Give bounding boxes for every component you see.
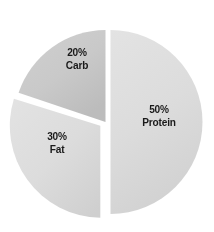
pie-label-carb-name: Carb [48, 59, 105, 72]
pie-label-protein-name: Protein [130, 116, 187, 129]
pie-label-fat-name: Fat [28, 143, 85, 156]
pie-label-protein-value: 50% [130, 103, 187, 116]
pie-label-protein: 50% Protein [130, 103, 187, 128]
pie-chart: 50% Protein 20% Carb 30% Fat [0, 0, 214, 232]
pie-label-carb: 20% Carb [48, 46, 105, 71]
pie-label-fat-value: 30% [28, 130, 85, 143]
pie-slice-fat [10, 99, 100, 218]
pie-label-carb-value: 20% [48, 46, 105, 59]
pie-label-fat: 30% Fat [28, 130, 85, 155]
